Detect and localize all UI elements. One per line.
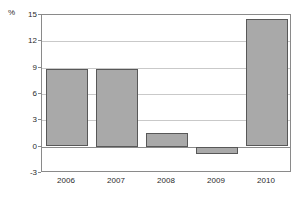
bar-2008 (146, 133, 188, 147)
y-axis-tick-label: 6 (9, 89, 37, 98)
bar-2010 (246, 19, 288, 146)
x-axis-tick-label: 2006 (41, 176, 91, 186)
plot-area (41, 14, 291, 172)
y-axis-tick-label: 0 (9, 142, 37, 151)
y-axis-tick-mark (38, 172, 41, 173)
y-axis-tick-label: 12 (9, 36, 37, 45)
bar-2006 (46, 69, 88, 146)
y-axis-tick-label: 3 (9, 115, 37, 124)
x-axis-tick-label: 2009 (191, 176, 241, 186)
y-axis-tick-label: 9 (9, 63, 37, 72)
gridline-0 (42, 147, 290, 148)
y-axis-tick-label: -3 (9, 168, 37, 177)
x-axis-tick-label: 2008 (141, 176, 191, 186)
bar-2009 (196, 147, 238, 154)
x-axis-tick-label: 2007 (91, 176, 141, 186)
bar-chart: % 15129630-3 20062007200820092010 (0, 0, 303, 200)
x-axis-tick-label: 2010 (241, 176, 291, 186)
bar-2007 (96, 69, 138, 147)
y-axis-tick-label: 15 (9, 10, 37, 19)
